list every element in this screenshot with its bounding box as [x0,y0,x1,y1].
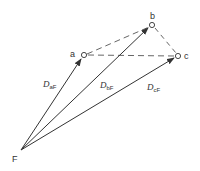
label-DcF: DcF [146,82,161,93]
vector-F-b [21,28,148,150]
dashed-edge-a-c [88,55,174,56]
vector-diagram: a b c F DaF DbF DcF [0,0,200,171]
label-DbF: DbF [99,80,114,91]
point-a [81,52,86,57]
label-c: c [184,51,189,61]
label-DaF: DaF [42,79,57,90]
label-F: F [12,154,18,164]
label-a: a [70,49,75,59]
vector-F-c [21,58,174,150]
dashed-edge-a-b [87,27,149,54]
vector-F-a [21,59,81,150]
label-b: b [150,11,155,21]
dashed-edge-b-c [155,28,176,53]
point-b [149,22,154,27]
point-c [175,53,180,58]
